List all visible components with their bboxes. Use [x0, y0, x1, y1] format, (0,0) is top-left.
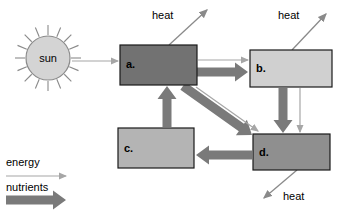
nutrient-arrow-c-to-a	[158, 86, 177, 127]
nutrient-arrow-a-to-d	[180, 82, 252, 135]
box-b: b.	[250, 50, 332, 87]
legend-nutrients-label: nutrients	[6, 181, 49, 193]
sun-ray	[64, 74, 71, 81]
heat-b-label: heat	[278, 9, 299, 21]
sun-ray	[57, 79, 61, 88]
box-a-label: a.	[126, 58, 135, 70]
sun-ray	[64, 35, 71, 42]
energy-arrow-a-to-d	[196, 87, 258, 131]
sun-ray	[69, 67, 78, 71]
sun-ray	[35, 28, 39, 37]
sun-ray	[25, 35, 32, 42]
sun-symbol: sun	[15, 25, 81, 91]
nutrient-arrow-d-to-c	[196, 146, 252, 165]
box-b-label: b.	[256, 62, 266, 74]
heat-d-label: heat	[283, 190, 304, 202]
box-c-label: c.	[124, 142, 133, 154]
diagram-canvas: sun a.b.c.d. heatheatheat energy nutrien…	[0, 0, 344, 220]
box-a: a.	[120, 45, 197, 85]
legend: energy nutrients	[6, 156, 66, 210]
sun-label: sun	[39, 52, 57, 64]
box-c: c.	[118, 128, 194, 168]
box-d: d.	[253, 134, 330, 170]
sun-ray	[18, 45, 27, 49]
legend-energy-label: energy	[6, 156, 40, 168]
energy-nutrient-diagram: sun a.b.c.d. heatheatheat energy nutrien…	[0, 0, 344, 220]
sun-ray	[25, 74, 32, 81]
sun-ray	[57, 28, 61, 37]
nutrient-arrow-b-to-d	[274, 88, 293, 133]
sun-ray	[35, 79, 39, 88]
heat-a-label: heat	[152, 9, 173, 21]
sun-ray	[69, 45, 78, 49]
heat-arrow-a	[169, 10, 207, 45]
box-d-label: d.	[259, 146, 269, 158]
legend-nutrients-arrow-icon	[6, 191, 66, 210]
nutrient-arrow-a-to-b	[197, 63, 248, 82]
sun-ray	[18, 67, 27, 71]
